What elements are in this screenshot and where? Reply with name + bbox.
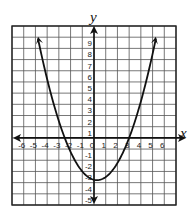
y-tick-label: 8 <box>88 50 93 59</box>
x-tick-label: -1 <box>77 141 85 150</box>
x-tick-label: 6 <box>160 141 165 150</box>
curve-arrowheads <box>36 37 158 45</box>
x-tick-label: -6 <box>18 141 26 150</box>
y-tick-label: 2 <box>88 118 93 127</box>
x-tick-label: -5 <box>30 141 38 150</box>
x-tick-label: 2 <box>113 141 118 150</box>
y-tick-label: 4 <box>88 95 93 104</box>
x-tick-label: -4 <box>42 141 50 150</box>
x-tick-label: 5 <box>148 141 153 150</box>
x-axis-label: x <box>179 125 187 141</box>
y-tick-label: 1 <box>88 129 93 138</box>
y-tick-label: -1 <box>85 151 93 160</box>
y-tick-label: 9 <box>88 39 93 48</box>
y-tick-label: 3 <box>88 106 93 115</box>
y-tick-label: -4 <box>85 185 93 194</box>
axes <box>13 26 186 204</box>
x-tick-label: 4 <box>137 141 142 150</box>
y-tick-label: 6 <box>88 73 93 82</box>
y-tick-label: -2 <box>85 162 93 171</box>
coordinate-plane: -6-5-4-3-2-10123456987654321-1-2-3-4-5 x… <box>0 0 195 215</box>
y-tick-label: 5 <box>88 84 93 93</box>
y-axis-label: y <box>88 9 97 25</box>
x-tick-label: -3 <box>53 141 61 150</box>
y-tick-label: -5 <box>85 196 93 205</box>
x-tick-label: 1 <box>101 141 106 150</box>
y-tick-label: 7 <box>88 62 93 71</box>
x-tick-label: 0 <box>90 141 95 150</box>
